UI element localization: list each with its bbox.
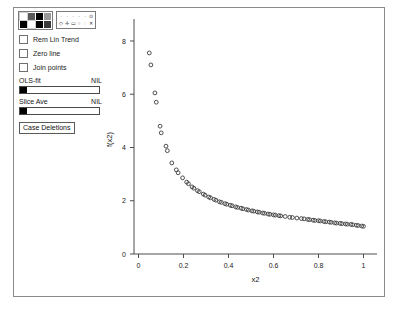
color-swatch-4[interactable] [20, 21, 27, 28]
y-tick-label: 8 [122, 38, 126, 45]
data-point-7 [165, 149, 169, 153]
checkbox-box[interactable] [19, 35, 28, 44]
data-point-3 [154, 100, 158, 104]
y-tick-label: 6 [122, 91, 126, 98]
symbol-option-5[interactable]: ⊙ [88, 13, 94, 20]
color-swatch-7[interactable] [44, 21, 51, 28]
case-deletions-button[interactable]: Case Deletions [19, 122, 75, 134]
x-tick-label: 0.4 [224, 262, 234, 269]
checkbox-box[interactable] [19, 63, 28, 72]
data-point-50 [291, 216, 295, 220]
data-point-48 [283, 215, 287, 219]
slider-header: Slice Ave NIL [19, 98, 102, 105]
slider-thumb[interactable] [20, 108, 27, 114]
data-point-8 [170, 161, 174, 165]
data-point-51 [295, 216, 299, 220]
data-point-10 [176, 171, 180, 175]
data-point-1 [149, 63, 153, 67]
color-swatch-3[interactable] [44, 13, 51, 20]
symbol-option-11[interactable]: ✕ [88, 20, 94, 27]
scatter-plot: 0246800.20.40.60.81x2f(x2) [100, 11, 384, 295]
slider-label: OLS-fit [19, 77, 41, 84]
symbol-picker[interactable]: ·····⊙◇✛▭○◌✕ [56, 11, 96, 29]
x-tick-label: 0.8 [314, 262, 324, 269]
color-swatch-5[interactable] [28, 21, 35, 28]
data-point-6 [164, 144, 168, 148]
y-tick-label: 0 [122, 251, 126, 258]
checkbox-label: Join points [33, 64, 66, 71]
y-axis-title: f(x2) [105, 131, 114, 147]
x-tick-label: 0.2 [179, 262, 189, 269]
slider-header: OLS-fit NIL [19, 77, 102, 84]
slider-track[interactable] [19, 86, 100, 94]
y-tick-label: 2 [122, 197, 126, 204]
checkbox-label: Rem Lin Trend [33, 36, 79, 43]
x-tick-label: 0.6 [269, 262, 279, 269]
color-swatch-6[interactable] [36, 21, 43, 28]
color-swatch-2[interactable] [36, 13, 43, 20]
data-point-group [147, 51, 365, 228]
x-tick-label: 0 [137, 262, 141, 269]
plot-window: ·····⊙◇✛▭○◌✕ Rem Lin Trend Zero line Joi… [13, 7, 385, 297]
data-point-2 [153, 91, 157, 95]
color-swatch-1[interactable] [28, 13, 35, 20]
slider-label: Slice Ave [19, 98, 48, 105]
data-point-4 [158, 124, 162, 128]
color-palette[interactable] [18, 11, 53, 30]
x-axis-title: x2 [252, 275, 260, 284]
slider-thumb[interactable] [20, 87, 27, 93]
color-swatch-0[interactable] [20, 13, 27, 20]
data-point-5 [159, 131, 163, 135]
plot-canvas: 0246800.20.40.60.81x2f(x2) [100, 11, 384, 295]
slider-track[interactable] [19, 107, 100, 115]
checkbox-box[interactable] [19, 49, 28, 58]
x-tick-label: 1 [362, 262, 366, 269]
data-point-0 [147, 51, 151, 55]
y-tick-label: 4 [122, 144, 126, 151]
checkbox-label: Zero line [33, 50, 60, 57]
data-point-11 [181, 176, 185, 180]
